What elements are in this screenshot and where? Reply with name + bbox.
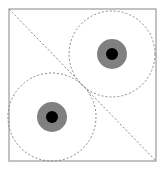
- diagram-canvas: [0, 0, 166, 174]
- dot-top-right: [106, 48, 118, 60]
- dot-bottom-left: [46, 111, 58, 123]
